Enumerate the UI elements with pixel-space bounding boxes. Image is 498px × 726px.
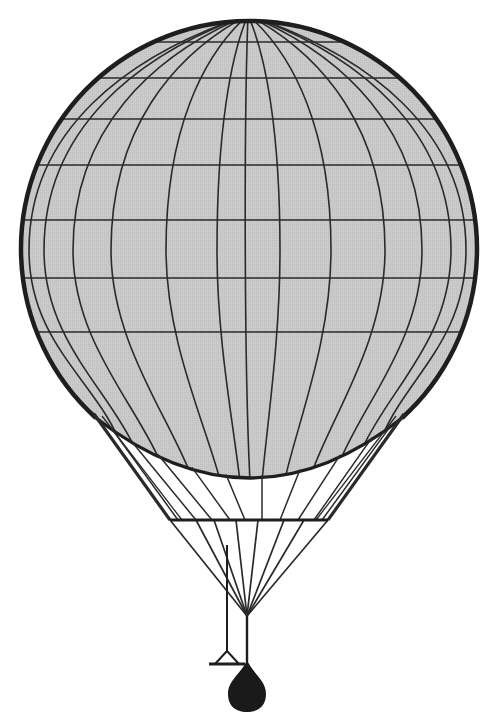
suspension-line: [280, 469, 300, 520]
suspension-line: [226, 474, 245, 520]
balloon-svg: [0, 0, 498, 726]
load-line: [247, 520, 328, 616]
drop-weight-icon: [228, 660, 266, 712]
payload-assembly: [209, 545, 266, 712]
balloon-envelope: [0, 15, 498, 482]
balloon-illustration: [0, 0, 498, 726]
trail-triangle-icon: [215, 651, 239, 664]
load-line: [170, 520, 247, 616]
load-line: [196, 520, 247, 616]
